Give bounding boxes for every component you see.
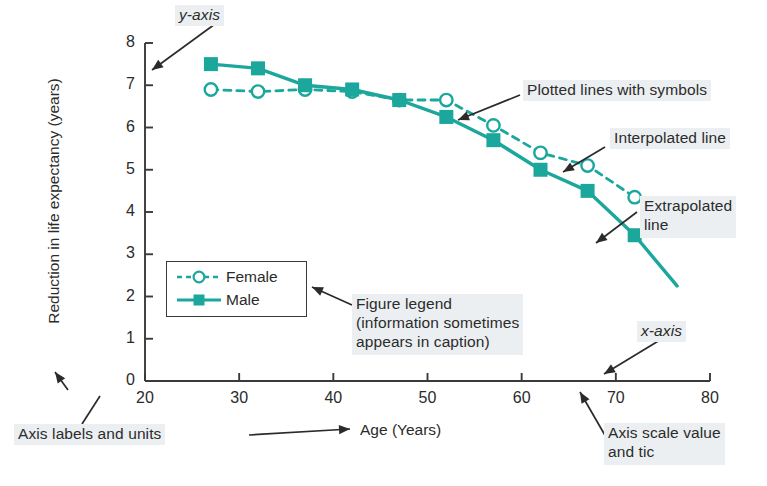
annotation-axis-scale-2: and tic [608, 443, 654, 460]
annotation-x-axis: x-axis [637, 321, 686, 342]
y-axis-title: Reduction in life expectancy (years) [45, 61, 63, 341]
annotation-y-axis: y-axis [175, 5, 224, 26]
annotation-extrapolated-line-2: line [644, 216, 669, 233]
y-tick-label: 3 [111, 244, 135, 262]
annotation-axis-scale-1: Axis scale value [608, 424, 721, 441]
annotation-figure-legend-2: (information sometimes [356, 314, 519, 331]
y-tick-label: 2 [111, 287, 135, 305]
legend-label-female: Female [226, 268, 278, 286]
male-symbol-swatch [175, 290, 223, 310]
annotation-extrapolated-line-1: Extrapolated [644, 197, 732, 214]
x-axis-title: Age (Years) [360, 421, 441, 439]
annotation-interpolated-line: Interpolated line [610, 128, 730, 149]
legend-item-male: Male [175, 289, 260, 311]
y-tick-label: 4 [111, 202, 135, 220]
annotation-extrapolated-line: Extrapolatedline [640, 196, 736, 238]
y-tick-label: 6 [111, 118, 135, 136]
legend-label-male: Male [226, 291, 260, 309]
annotation-figure-legend-3: appears in caption) [356, 333, 490, 350]
female-symbol-swatch [175, 267, 223, 287]
y-tick-label: 1 [111, 329, 135, 347]
y-tick-label: 0 [111, 371, 135, 389]
x-tick-label: 80 [695, 389, 725, 407]
legend-item-female: Female [175, 266, 278, 288]
chart-canvas [0, 0, 767, 486]
annotation-axis-scale-value: Axis scale valueand tic [604, 423, 725, 465]
x-tick-label: 50 [413, 389, 443, 407]
x-tick-label: 30 [224, 389, 254, 407]
y-tick-label: 8 [111, 33, 135, 51]
x-tick-label: 60 [507, 389, 537, 407]
annotation-figure-legend-1: Figure legend [356, 295, 452, 312]
x-tick-label: 20 [130, 389, 160, 407]
y-tick-label: 5 [111, 160, 135, 178]
x-tick-label: 40 [318, 389, 348, 407]
annotation-figure-legend: Figure legend(information sometimesappea… [352, 294, 523, 355]
y-tick-label: 7 [111, 75, 135, 93]
annotation-plotted-lines: Plotted lines with symbols [523, 80, 711, 101]
x-tick-label: 70 [601, 389, 631, 407]
figure-root: Reduction in life expectancy (years) Age… [0, 0, 767, 486]
figure-legend: Female Male [166, 261, 307, 317]
annotation-axis-labels-units: Axis labels and units [14, 424, 165, 445]
